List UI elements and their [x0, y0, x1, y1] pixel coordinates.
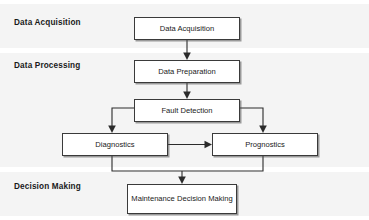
- stage-label-decision-making: Decision Making: [14, 182, 81, 191]
- stage-label-data-acquisition: Data Acquisition: [14, 18, 81, 27]
- node-maintenance-decision-making[interactable]: Maintenance Decision Making: [127, 184, 237, 214]
- stage-label-data-processing: Data Processing: [14, 61, 80, 70]
- node-data-acquisition[interactable]: Data Acquisition: [134, 17, 240, 40]
- node-diagnostics[interactable]: Diagnostics: [62, 133, 168, 156]
- node-prognostics[interactable]: Prognostics: [212, 133, 318, 156]
- diagram-canvas: Data Acquisition Data Processing Decisio…: [0, 0, 369, 220]
- node-data-preparation[interactable]: Data Preparation: [134, 60, 240, 83]
- node-fault-detection[interactable]: Fault Detection: [134, 99, 240, 122]
